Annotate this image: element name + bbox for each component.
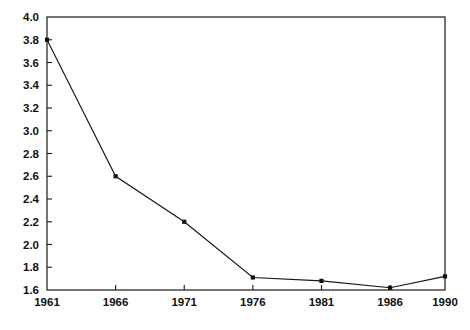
y-axis-tick-label: 3.2 xyxy=(23,102,39,114)
y-axis-tick-label: 1.8 xyxy=(23,261,40,273)
data-point-marker xyxy=(114,174,118,178)
y-axis-tick-label: 1.6 xyxy=(23,284,39,296)
line-chart: 1.61.82.02.22.42.62.83.03.23.43.63.84.0 … xyxy=(0,0,470,330)
y-axis-tick-label: 2.2 xyxy=(23,216,39,228)
y-axis-tick-label: 3.4 xyxy=(23,79,40,91)
x-axis-tick-label: 1976 xyxy=(240,296,266,308)
x-axis-tick-label: 1981 xyxy=(309,296,335,308)
x-axis-tick-label: 1971 xyxy=(171,296,197,308)
data-point-marker xyxy=(388,286,392,290)
x-axis-tick-label: 1990 xyxy=(432,296,458,308)
x-axis-tick-label: 1986 xyxy=(377,296,403,308)
data-point-marker xyxy=(251,275,255,279)
y-axis-tick-label: 2.8 xyxy=(23,148,40,160)
chart-background xyxy=(0,0,470,330)
y-axis-tick-label: 2.0 xyxy=(23,239,39,251)
data-point-marker xyxy=(182,220,186,224)
x-axis-tick-label: 1966 xyxy=(103,296,129,308)
y-axis-tick-label: 3.6 xyxy=(23,57,39,69)
y-axis-tick-label: 4.0 xyxy=(23,11,39,23)
data-point-marker xyxy=(45,38,49,42)
y-axis-tick-label: 3.8 xyxy=(23,34,40,46)
chart-container: 1.61.82.02.22.42.62.83.03.23.43.63.84.0 … xyxy=(0,0,470,330)
y-axis-tick-label: 2.4 xyxy=(23,193,40,205)
x-axis-tick-label: 1961 xyxy=(34,296,60,308)
data-point-marker xyxy=(443,274,447,278)
y-axis-tick-label: 2.6 xyxy=(23,170,39,182)
data-point-marker xyxy=(319,279,323,283)
y-axis-tick-label: 3.0 xyxy=(23,125,39,137)
